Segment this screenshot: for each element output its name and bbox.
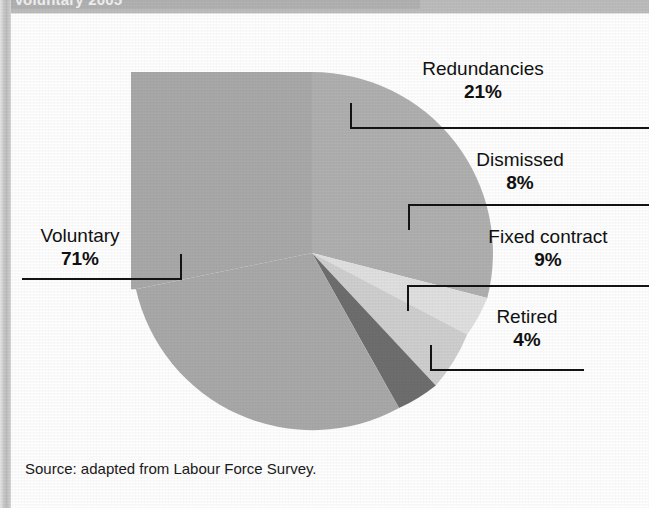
label-fixed-contract: Fixed contract 9% (455, 225, 641, 271)
pie-chart: Redundancies 21% Dismissed 8% Fixed cont… (0, 0, 649, 508)
label-dismissed: Dismissed 8% (440, 148, 600, 194)
label-voluntary-name: Voluntary (40, 225, 119, 246)
label-voluntary: Voluntary 71% (10, 224, 150, 270)
label-fixed-contract-name: Fixed contract (488, 226, 607, 247)
label-retired: Retired 4% (452, 305, 602, 351)
pie-slice-voluntary (131, 72, 312, 289)
label-redundancies-name: Redundancies (422, 58, 543, 79)
label-retired-value: 4% (452, 328, 602, 351)
label-dismissed-value: 8% (440, 171, 600, 194)
label-redundancies-value: 21% (393, 80, 573, 103)
label-voluntary-value: 71% (10, 247, 150, 270)
source-note: Source: adapted from Labour Force Survey… (25, 460, 317, 477)
figure-page: Voluntary 2005 Re (0, 0, 649, 508)
pie-graphic (131, 72, 493, 434)
label-retired-name: Retired (496, 306, 557, 327)
label-dismissed-name: Dismissed (476, 149, 564, 170)
label-fixed-contract-value: 9% (455, 248, 641, 271)
label-redundancies: Redundancies 21% (393, 57, 573, 103)
